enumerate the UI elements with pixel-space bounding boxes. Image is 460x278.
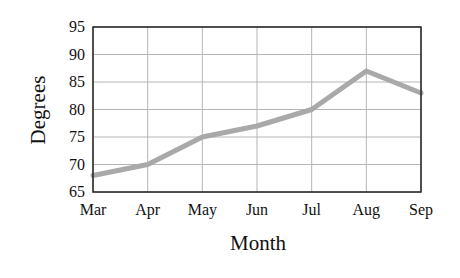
- y-tick-label: 90: [69, 46, 85, 63]
- x-tick-label: Apr: [135, 201, 161, 219]
- x-tick-label: Sep: [409, 201, 433, 219]
- line-chart: 65707580859095 MarAprMayJunJulAugSep Mon…: [0, 0, 460, 278]
- x-tick-label: May: [188, 201, 217, 219]
- x-tick-label: Aug: [353, 201, 381, 219]
- x-tick-label: Mar: [80, 201, 107, 218]
- x-axis-label: Month: [230, 231, 287, 255]
- x-tick-label: Jul: [302, 201, 321, 218]
- y-tick-label: 85: [69, 73, 85, 90]
- y-tick-label: 65: [69, 183, 85, 200]
- y-tick-label: 70: [69, 156, 85, 173]
- y-tick-label: 80: [69, 101, 85, 118]
- y-tick-label: 95: [69, 18, 85, 35]
- x-tick-label: Jun: [246, 201, 268, 218]
- y-axis-label: Degrees: [26, 76, 50, 145]
- x-axis-ticks: MarAprMayJunJulAugSep: [80, 201, 433, 219]
- y-axis-ticks: 65707580859095: [69, 18, 85, 200]
- y-tick-label: 75: [69, 128, 85, 145]
